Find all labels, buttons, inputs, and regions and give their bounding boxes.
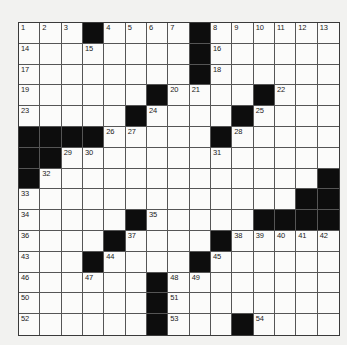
grid-cell[interactable] <box>147 44 168 65</box>
grid-cell[interactable] <box>40 231 61 252</box>
grid-cell[interactable] <box>104 273 125 294</box>
grid-cell[interactable]: 41 <box>296 231 317 252</box>
grid-cell[interactable]: 52 <box>19 314 40 335</box>
grid-cell[interactable]: 22 <box>275 85 296 106</box>
grid-cell[interactable]: 18 <box>211 65 232 86</box>
grid-cell[interactable] <box>83 231 104 252</box>
grid-cell[interactable] <box>40 210 61 231</box>
grid-cell[interactable] <box>147 127 168 148</box>
grid-cell[interactable] <box>62 65 83 86</box>
grid-cell[interactable] <box>104 106 125 127</box>
grid-cell[interactable] <box>275 189 296 210</box>
grid-cell[interactable]: 13 <box>318 23 339 44</box>
grid-cell[interactable] <box>168 252 189 273</box>
grid-cell[interactable]: 14 <box>19 44 40 65</box>
grid-cell[interactable] <box>168 148 189 169</box>
grid-cell[interactable]: 53 <box>168 314 189 335</box>
grid-cell[interactable] <box>190 169 211 190</box>
grid-cell[interactable] <box>104 85 125 106</box>
grid-cell[interactable]: 21 <box>190 85 211 106</box>
grid-cell[interactable]: 5 <box>126 23 147 44</box>
grid-cell[interactable] <box>168 44 189 65</box>
grid-cell[interactable] <box>254 65 275 86</box>
grid-cell[interactable] <box>40 189 61 210</box>
grid-cell[interactable]: 49 <box>190 273 211 294</box>
grid-cell[interactable] <box>83 314 104 335</box>
grid-cell[interactable] <box>126 85 147 106</box>
grid-cell[interactable] <box>62 169 83 190</box>
grid-cell[interactable] <box>318 252 339 273</box>
grid-cell[interactable]: 48 <box>168 273 189 294</box>
grid-cell[interactable] <box>147 169 168 190</box>
grid-cell[interactable] <box>296 252 317 273</box>
grid-cell[interactable] <box>40 314 61 335</box>
grid-cell[interactable] <box>40 293 61 314</box>
grid-cell[interactable]: 51 <box>168 293 189 314</box>
grid-cell[interactable] <box>275 169 296 190</box>
grid-cell[interactable]: 11 <box>275 23 296 44</box>
grid-cell[interactable] <box>275 44 296 65</box>
grid-cell[interactable] <box>318 293 339 314</box>
grid-cell[interactable] <box>190 127 211 148</box>
grid-cell[interactable] <box>318 44 339 65</box>
grid-cell[interactable] <box>40 106 61 127</box>
grid-cell[interactable] <box>211 169 232 190</box>
grid-cell[interactable]: 29 <box>62 148 83 169</box>
grid-cell[interactable] <box>254 273 275 294</box>
grid-cell[interactable] <box>254 127 275 148</box>
grid-cell[interactable] <box>40 65 61 86</box>
grid-cell[interactable]: 33 <box>19 189 40 210</box>
grid-cell[interactable] <box>254 252 275 273</box>
grid-cell[interactable] <box>211 314 232 335</box>
grid-cell[interactable]: 7 <box>168 23 189 44</box>
grid-cell[interactable] <box>232 169 253 190</box>
grid-cell[interactable] <box>232 65 253 86</box>
grid-cell[interactable]: 20 <box>168 85 189 106</box>
grid-cell[interactable] <box>62 44 83 65</box>
grid-cell[interactable] <box>147 252 168 273</box>
grid-cell[interactable] <box>296 169 317 190</box>
grid-cell[interactable] <box>126 148 147 169</box>
grid-cell[interactable] <box>232 44 253 65</box>
grid-cell[interactable] <box>147 148 168 169</box>
grid-cell[interactable] <box>83 106 104 127</box>
grid-cell[interactable] <box>126 44 147 65</box>
grid-cell[interactable] <box>83 85 104 106</box>
grid-cell[interactable] <box>104 293 125 314</box>
grid-cell[interactable] <box>232 210 253 231</box>
grid-cell[interactable] <box>318 273 339 294</box>
grid-cell[interactable] <box>296 314 317 335</box>
grid-cell[interactable] <box>296 127 317 148</box>
grid-cell[interactable] <box>190 189 211 210</box>
grid-cell[interactable] <box>126 65 147 86</box>
grid-cell[interactable] <box>296 273 317 294</box>
grid-cell[interactable] <box>83 65 104 86</box>
grid-cell[interactable] <box>126 252 147 273</box>
grid-cell[interactable] <box>168 169 189 190</box>
grid-cell[interactable] <box>168 127 189 148</box>
grid-cell[interactable]: 38 <box>232 231 253 252</box>
grid-cell[interactable]: 35 <box>147 210 168 231</box>
grid-cell[interactable]: 54 <box>254 314 275 335</box>
grid-cell[interactable]: 47 <box>83 273 104 294</box>
grid-cell[interactable]: 43 <box>19 252 40 273</box>
grid-cell[interactable]: 19 <box>19 85 40 106</box>
grid-cell[interactable]: 46 <box>19 273 40 294</box>
grid-cell[interactable] <box>211 85 232 106</box>
grid-cell[interactable]: 10 <box>254 23 275 44</box>
grid-cell[interactable] <box>190 231 211 252</box>
grid-cell[interactable] <box>254 44 275 65</box>
grid-cell[interactable] <box>147 231 168 252</box>
grid-cell[interactable]: 30 <box>83 148 104 169</box>
grid-cell[interactable]: 15 <box>83 44 104 65</box>
grid-cell[interactable]: 37 <box>126 231 147 252</box>
grid-cell[interactable] <box>318 148 339 169</box>
grid-cell[interactable] <box>296 65 317 86</box>
grid-cell[interactable]: 44 <box>104 252 125 273</box>
grid-cell[interactable]: 40 <box>275 231 296 252</box>
grid-cell[interactable] <box>232 189 253 210</box>
grid-cell[interactable] <box>62 273 83 294</box>
grid-cell[interactable] <box>83 169 104 190</box>
grid-cell[interactable] <box>211 189 232 210</box>
grid-cell[interactable]: 6 <box>147 23 168 44</box>
